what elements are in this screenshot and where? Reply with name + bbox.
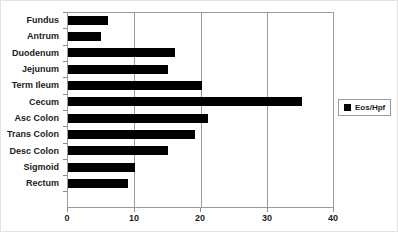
x-axis-label-30: 30 — [262, 213, 272, 223]
bar-row — [67, 28, 334, 44]
bar-row — [67, 175, 334, 191]
y-axis-label-fundus: Fundus — [1, 12, 63, 28]
x-axis-tick — [134, 208, 135, 212]
y-axis-label-antrum: Antrum — [1, 28, 63, 44]
bar-term-ileum[interactable] — [68, 81, 202, 90]
y-axis-label-sigmoid: Sigmoid — [1, 159, 63, 175]
x-axis-tick — [267, 208, 268, 212]
bar-desc-colon[interactable] — [68, 146, 168, 155]
y-axis-label-jejunum: Jejunum — [1, 61, 63, 77]
x-axis-label-40: 40 — [328, 213, 338, 223]
bar-row — [67, 77, 334, 93]
bar-sigmoid[interactable] — [68, 163, 135, 172]
bar-duodenum[interactable] — [68, 48, 175, 57]
y-axis-label-asc-colon: Asc Colon — [1, 110, 63, 126]
chart-legend: Eos/Hpf — [338, 99, 391, 116]
y-axis-label-desc-colon: Desc Colon — [1, 143, 63, 159]
bar-row — [67, 94, 334, 110]
bar-row — [67, 12, 334, 28]
x-axis-label-0: 0 — [64, 213, 69, 223]
x-axis-label-10: 10 — [129, 213, 139, 223]
x-axis-tick — [200, 208, 201, 212]
y-axis-label-term-ileum: Term Ileum — [1, 77, 63, 93]
bar-row — [67, 61, 334, 77]
bar-antrum[interactable] — [68, 32, 101, 41]
bar-row — [67, 110, 334, 126]
bar-jejunum[interactable] — [68, 65, 168, 74]
bar-row — [67, 45, 334, 61]
y-axis-category-labels: Fundus Antrum Duodenum Jejunum Term Ileu… — [1, 12, 63, 208]
legend-label-eos-hpf: Eos/Hpf — [355, 103, 385, 112]
y-axis-label-rectum: Rectum — [1, 175, 63, 191]
x-axis-tick — [333, 208, 334, 212]
bar-rectum[interactable] — [68, 179, 128, 188]
y-axis-label-duodenum: Duodenum — [1, 45, 63, 61]
y-axis-label-trans-colon: Trans Colon — [1, 126, 63, 142]
x-axis-label-20: 20 — [195, 213, 205, 223]
bar-fundus[interactable] — [68, 16, 108, 25]
y-axis-label-cecum: Cecum — [1, 94, 63, 110]
bar-row — [67, 143, 334, 159]
bar-trans-colon[interactable] — [68, 130, 195, 139]
bar-asc-colon[interactable] — [68, 114, 208, 123]
bar-series-eos-hpf — [67, 12, 334, 208]
eosinophil-count-bar-chart: Fundus Antrum Duodenum Jejunum Term Ileu… — [0, 0, 398, 232]
x-axis-tick — [67, 208, 68, 212]
legend-swatch-icon — [344, 104, 351, 111]
bar-cecum[interactable] — [68, 97, 302, 106]
bar-row — [67, 126, 334, 142]
bar-row — [67, 159, 334, 175]
